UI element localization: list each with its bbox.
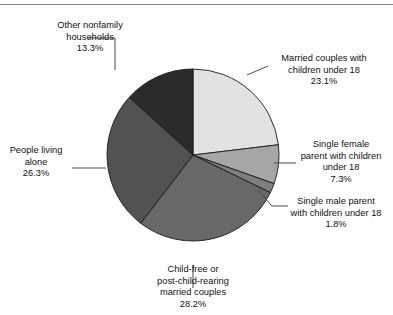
label-single-male-line2: with children under 18 bbox=[281, 208, 391, 220]
label-child-free-line3: married couples bbox=[129, 287, 257, 299]
label-single-male-percent: 1.8% bbox=[281, 219, 391, 231]
label-single-male-parent: Single male parent with children under 1… bbox=[281, 196, 391, 231]
label-other-nonfamily-percent: 13.3% bbox=[26, 43, 154, 55]
label-single-female-line2: parent with children bbox=[291, 151, 391, 163]
label-people-living-alone-percent: 26.3% bbox=[0, 168, 72, 180]
label-other-nonfamily-line1: Other nonfamily bbox=[26, 20, 154, 32]
label-people-living-alone-line1: People living bbox=[0, 145, 72, 157]
label-people-living-alone-line2: alone bbox=[0, 157, 72, 169]
label-married-line2: children under 18 bbox=[258, 65, 390, 77]
label-child-free-married-couples: Child-free or post-child-rearing married… bbox=[129, 264, 257, 310]
label-people-living-alone: People living alone 26.3% bbox=[0, 145, 72, 180]
label-child-free-line1: Child-free or bbox=[129, 264, 257, 276]
label-other-nonfamily-line2: households bbox=[26, 32, 154, 44]
pie-chart-figure: Other nonfamily households 13.3% People … bbox=[0, 0, 393, 315]
label-single-male-line1: Single male parent bbox=[281, 196, 391, 208]
label-married-couples-with-children: Married couples with children under 18 2… bbox=[258, 53, 390, 88]
label-other-nonfamily-households: Other nonfamily households 13.3% bbox=[26, 20, 154, 55]
label-single-female-percent: 7.3% bbox=[291, 174, 391, 186]
label-married-percent: 23.1% bbox=[258, 76, 390, 88]
label-child-free-line2: post-child-rearing bbox=[129, 276, 257, 288]
label-single-female-parent: Single female parent with children under… bbox=[291, 139, 391, 185]
label-single-female-line3: under 18 bbox=[291, 162, 391, 174]
label-single-female-line1: Single female bbox=[291, 139, 391, 151]
label-married-line1: Married couples with bbox=[258, 53, 390, 65]
label-child-free-percent: 28.2% bbox=[129, 299, 257, 311]
pie-slice-group bbox=[107, 69, 279, 241]
